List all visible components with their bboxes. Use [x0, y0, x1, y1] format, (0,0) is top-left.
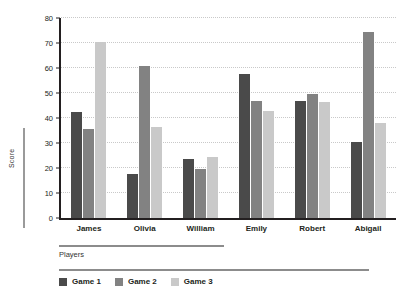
plot-area	[61, 18, 396, 218]
legend-swatch-icon	[59, 278, 67, 286]
bar[interactable]	[319, 102, 330, 218]
y-tick-label: 10	[45, 189, 53, 198]
bar[interactable]	[295, 101, 306, 219]
bar[interactable]	[363, 32, 374, 218]
bar-group	[228, 18, 284, 218]
bar-group	[173, 18, 229, 218]
bar[interactable]	[83, 129, 94, 218]
legend-label: Game 3	[184, 277, 213, 286]
y-tick-label: 50	[45, 89, 53, 98]
bar[interactable]	[375, 123, 386, 218]
y-tick-label: 70	[45, 39, 53, 48]
y-axis-title: Score	[8, 108, 15, 168]
bar-group	[61, 18, 117, 218]
y-tick-label: 20	[45, 164, 53, 173]
y-tick-label: 40	[45, 114, 53, 123]
bar[interactable]	[71, 112, 82, 218]
x-category-label: Robert	[284, 224, 340, 233]
bar-groups	[61, 18, 396, 218]
x-axis-title: Players	[59, 250, 84, 259]
bar[interactable]	[351, 142, 362, 218]
y-axis-tick-labels: 01020304050607080	[34, 18, 56, 226]
legend-item[interactable]: Game 2	[115, 277, 157, 286]
legend: Game 1Game 2Game 3	[59, 277, 213, 286]
bar-chart: Score 01020304050607080 JamesOliviaWilli…	[0, 0, 404, 297]
legend-swatch-icon	[115, 278, 123, 286]
bar[interactable]	[251, 101, 262, 219]
bar[interactable]	[127, 174, 138, 218]
y-tick-label: 30	[45, 139, 53, 148]
x-axis-line	[59, 218, 396, 220]
x-category-label: Olivia	[117, 224, 173, 233]
x-category-label: William	[173, 224, 229, 233]
x-category-label: James	[61, 224, 117, 233]
bar[interactable]	[263, 111, 274, 219]
legend-swatch-icon	[171, 278, 179, 286]
legend-item[interactable]: Game 3	[171, 277, 213, 286]
x-axis-category-labels: JamesOliviaWilliamEmilyRobertAbigail	[61, 224, 396, 233]
bar[interactable]	[239, 74, 250, 218]
x-category-label: Emily	[228, 224, 284, 233]
bar[interactable]	[307, 94, 318, 218]
y-tick-label: 0	[49, 214, 53, 223]
bar-group	[117, 18, 173, 218]
y-axis-title-rule	[23, 128, 25, 228]
x-category-label: Abigail	[340, 224, 396, 233]
legend-rule	[59, 269, 369, 271]
bar-group	[284, 18, 340, 218]
legend-label: Game 2	[128, 277, 157, 286]
legend-item[interactable]: Game 1	[59, 277, 101, 286]
y-tick-label: 80	[45, 14, 53, 23]
bar[interactable]	[207, 157, 218, 218]
bar[interactable]	[195, 169, 206, 218]
bar-group	[340, 18, 396, 218]
plot-wrapper: 01020304050607080	[34, 18, 396, 226]
bar[interactable]	[183, 159, 194, 218]
legend-label: Game 1	[72, 277, 101, 286]
bar[interactable]	[95, 42, 106, 218]
x-axis-title-rule	[59, 245, 224, 247]
bar[interactable]	[151, 127, 162, 218]
bar[interactable]	[139, 66, 150, 219]
y-tick-label: 60	[45, 64, 53, 73]
